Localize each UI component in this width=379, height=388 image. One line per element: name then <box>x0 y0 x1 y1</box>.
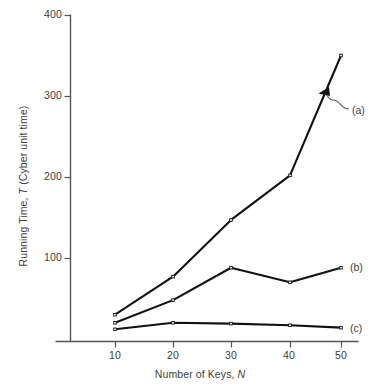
x-tick-label-30: 30 <box>216 349 246 361</box>
x-axis-title-prefix: Number of Keys, <box>155 368 238 380</box>
chart-plot-area <box>0 0 379 388</box>
y-axis-title-variable: T <box>17 188 29 195</box>
y-tick-label-400: 400 <box>22 8 62 20</box>
data-series-group <box>115 56 341 330</box>
y-axis-title-suffix: (Cyber unit time) <box>17 106 29 188</box>
x-tick-label-50: 50 <box>326 349 356 361</box>
y-axis-title-prefix: Running Time, <box>17 194 29 266</box>
y-axis-ticks <box>65 16 71 259</box>
y-axis-title: Running Time, T (Cyber unit time) <box>17 86 29 286</box>
x-axis-ticks <box>116 342 342 348</box>
annotation-label-a: (a) <box>352 104 365 116</box>
series-end-label-c: (c) <box>350 322 362 334</box>
x-axis-title: Number of Keys, N <box>90 368 310 380</box>
data-point-markers <box>114 54 343 330</box>
series-end-label-b: (b) <box>350 261 363 273</box>
x-tick-label-40: 40 <box>274 349 304 361</box>
x-tick-label-10: 10 <box>100 349 130 361</box>
x-axis-title-variable: N <box>238 368 246 380</box>
x-tick-label-20: 20 <box>158 349 188 361</box>
chart-figure: 400 300 200 100 10 20 30 40 50 Running T… <box>0 0 379 388</box>
